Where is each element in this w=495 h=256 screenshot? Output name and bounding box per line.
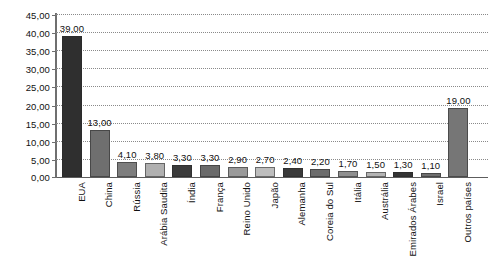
- x-axis-category-label: Índia: [187, 182, 197, 203]
- x-axis-category: Coreia do Sul: [310, 180, 330, 250]
- x-axis-category-label: Itália: [353, 182, 363, 203]
- x-axis-category-label: Reino Unido: [242, 182, 252, 235]
- x-axis-category: Austrália: [366, 180, 386, 250]
- bar-column[interactable]: 3,80: [145, 14, 165, 177]
- bar[interactable]: [62, 36, 82, 177]
- bar-value-label: 19,00: [446, 95, 470, 106]
- bar-column[interactable]: 3,30: [200, 14, 220, 177]
- x-axis-category-label: Japão: [270, 182, 280, 208]
- bar-value-label: 3,80: [145, 150, 164, 161]
- bar[interactable]: [228, 167, 248, 178]
- x-axis-category: Rússia: [117, 180, 137, 250]
- x-axis-category-label: Coreia do Sul: [325, 182, 335, 241]
- y-axis-tick-label: 30,00: [26, 64, 50, 75]
- x-axis-category: Arábia Saudita: [145, 180, 165, 250]
- x-axis-category-labels: EUAChinaRússiaArábia SauditaÍndiaFrançaR…: [56, 180, 488, 250]
- bar-value-label: 2,90: [228, 154, 247, 165]
- bar[interactable]: [172, 165, 192, 177]
- x-axis-category: Alemanha: [283, 180, 303, 250]
- y-axis-tick-label: 5,00: [31, 154, 50, 165]
- bar-value-label: 13,00: [87, 117, 111, 128]
- bar[interactable]: [200, 165, 220, 177]
- x-axis-category: Israel: [421, 180, 441, 250]
- x-axis-line: [55, 177, 488, 178]
- bar-value-label: 3,30: [201, 152, 220, 163]
- bar-value-label: 2,70: [256, 154, 275, 165]
- y-axis-tick-label: 0,00: [31, 172, 50, 183]
- x-axis-category: França: [200, 180, 220, 250]
- bar-value-label: 2,20: [311, 156, 330, 167]
- x-axis-category-label: Outros países: [463, 182, 473, 242]
- bar[interactable]: [393, 172, 413, 177]
- x-axis-category: Japão: [255, 180, 275, 250]
- x-axis-category-label: França: [215, 182, 225, 212]
- x-axis-category-label: Emirados Árabes: [408, 182, 418, 256]
- bar-value-label: 2,40: [283, 155, 302, 166]
- bar[interactable]: [448, 108, 468, 177]
- x-axis-category-label: Rússia: [132, 182, 142, 212]
- x-axis-category: Outros países: [448, 180, 468, 250]
- bar[interactable]: [117, 162, 137, 177]
- bars-group: 39,0013,004,103,803,303,302,902,702,402,…: [56, 14, 488, 177]
- y-axis-tick-label: 20,00: [26, 100, 50, 111]
- y-axis-tick-label: 15,00: [26, 118, 50, 129]
- bar-column[interactable]: 19,00: [448, 14, 468, 177]
- x-axis-category: Índia: [172, 180, 192, 250]
- bar[interactable]: [90, 130, 110, 177]
- bar-column[interactable]: 13,00: [90, 14, 110, 177]
- bar-column[interactable]: 2,40: [283, 14, 303, 177]
- bar[interactable]: [338, 171, 358, 177]
- bar-column[interactable]: 2,70: [255, 14, 275, 177]
- bar[interactable]: [310, 169, 330, 177]
- y-axis-tick: [52, 177, 57, 178]
- bar[interactable]: [366, 172, 386, 177]
- x-axis-category: EUA: [62, 180, 82, 250]
- bar-column[interactable]: 1,30: [393, 14, 413, 177]
- bar-value-label: 4,10: [118, 149, 137, 160]
- bar-value-label: 1,10: [421, 160, 440, 171]
- x-axis-category: China: [90, 180, 110, 250]
- bar-column[interactable]: 4,10: [117, 14, 137, 177]
- x-axis-category-label: EUA: [77, 182, 87, 202]
- bar-column[interactable]: 3,30: [172, 14, 192, 177]
- bar-column[interactable]: 1,50: [366, 14, 386, 177]
- bar[interactable]: [283, 168, 303, 177]
- bar[interactable]: [255, 167, 275, 177]
- x-axis-category: Reino Unido: [228, 180, 248, 250]
- bar-column[interactable]: 39,00: [62, 14, 82, 177]
- bar-column[interactable]: 2,20: [310, 14, 330, 177]
- y-axis-tick-label: 35,00: [26, 46, 50, 57]
- y-axis-tick-label: 25,00: [26, 82, 50, 93]
- bar-column[interactable]: 1,70: [338, 14, 358, 177]
- y-axis-tick-label: 10,00: [26, 136, 50, 147]
- x-axis-category-label: Austrália: [380, 182, 390, 220]
- x-axis-category: Itália: [338, 180, 358, 250]
- y-axis-tick-label: 40,00: [26, 28, 50, 39]
- bar-value-label: 39,00: [60, 23, 84, 34]
- x-axis-category-label: China: [104, 182, 114, 207]
- x-axis-category-label: Alemanha: [297, 182, 307, 226]
- x-axis-category-label: Arábia Saudita: [159, 182, 169, 246]
- bar-value-label: 1,30: [394, 159, 413, 170]
- bar-value-label: 1,50: [366, 159, 385, 170]
- x-axis-category-label: Israel: [435, 182, 445, 206]
- bar[interactable]: [145, 163, 165, 177]
- x-axis-category: Emirados Árabes: [393, 180, 413, 250]
- bar-value-label: 3,30: [173, 152, 192, 163]
- plot-area: 0,005,0010,0015,0020,0025,0030,0035,0040…: [56, 14, 488, 177]
- bar[interactable]: [421, 173, 441, 177]
- bar-column[interactable]: 1,10: [421, 14, 441, 177]
- bar-column[interactable]: 2,90: [228, 14, 248, 177]
- y-axis-tick-label: 45,00: [26, 10, 50, 21]
- bar-value-label: 1,70: [339, 158, 358, 169]
